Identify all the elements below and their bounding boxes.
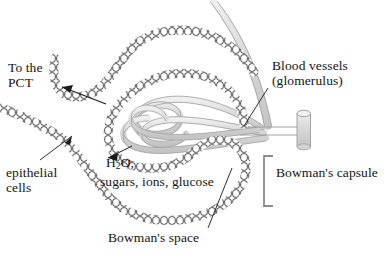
label-bowmans-space: Bowman's space <box>108 230 228 245</box>
label-to-the-pct-line2: PCT <box>8 75 33 90</box>
bowmans-capsule-bracket <box>264 156 272 206</box>
label-filtrate-contents: H2O, sugars, ions, glucose <box>100 155 240 189</box>
label-filtrate-solutes: sugars, ions, glucose <box>100 174 240 189</box>
label-filtrate-water: H2O, <box>100 155 240 174</box>
diagram-canvas <box>0 0 390 263</box>
tubule-lower-left-limb <box>2 108 62 138</box>
label-blood-vessels-line2: (glomerulus) <box>272 73 343 88</box>
label-filtrate-water-post: O, <box>121 155 134 170</box>
label-blood-vessels-line1: Blood vessels <box>272 58 348 73</box>
label-epithelial-cells-line1: epithelial <box>6 165 57 180</box>
label-filtrate-water-pre: H <box>106 155 116 170</box>
label-bowmans-capsule: Bowman's capsule <box>276 165 384 180</box>
label-epithelial-cells: epithelial cells <box>6 165 80 195</box>
label-blood-vessels: Blood vessels (glomerulus) <box>272 58 384 88</box>
label-epithelial-cells-line2: cells <box>6 180 31 195</box>
nephron-diagram: To the PCT Blood vessels (glomerulus) ep… <box>0 0 390 263</box>
label-to-the-pct-line1: To the <box>8 60 43 75</box>
label-to-the-pct: To the PCT <box>8 60 72 90</box>
vessel-trunk-stem <box>297 110 311 150</box>
